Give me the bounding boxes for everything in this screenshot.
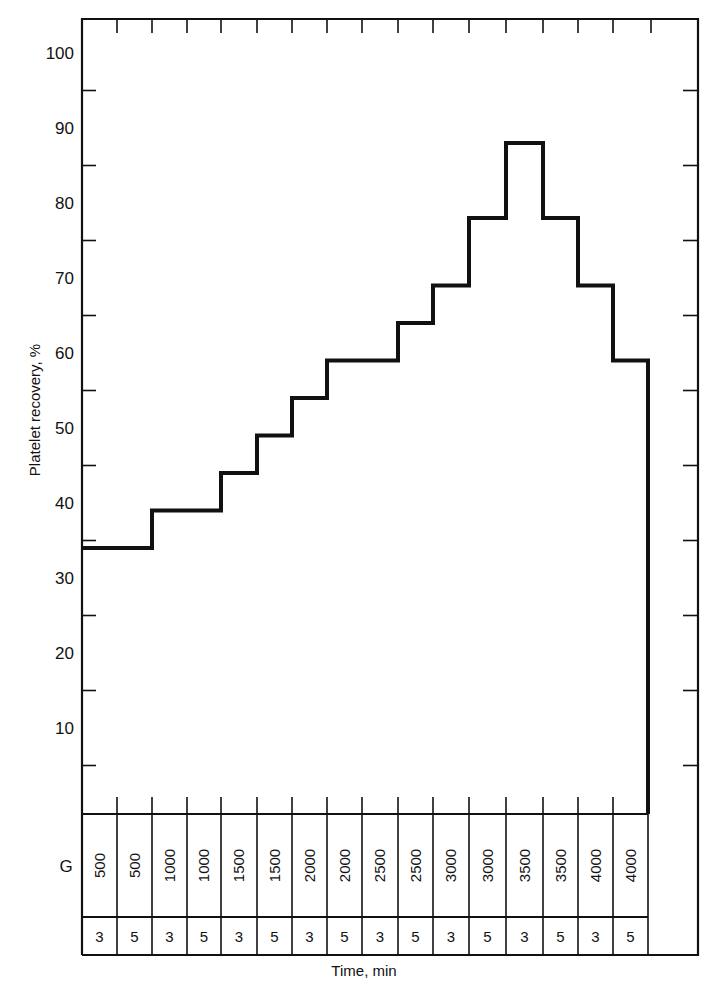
x-axis-title: Time, min (331, 962, 396, 979)
y-tick-label: 70 (55, 269, 74, 288)
g-value-cell: 1000 (195, 849, 212, 882)
y-axis-ticks (82, 91, 698, 766)
time-value-cell: 3 (235, 928, 243, 945)
time-value-cell: 3 (305, 928, 313, 945)
g-value-cell: 500 (126, 853, 143, 878)
time-value-cell: 5 (483, 928, 491, 945)
time-value-cell: 5 (130, 928, 138, 945)
time-value-cell: 3 (520, 928, 528, 945)
g-value-cell: 2000 (301, 849, 318, 882)
time-value-cell: 5 (340, 928, 348, 945)
g-value-cell: 1000 (161, 849, 178, 882)
g-value-cell: 4000 (622, 849, 639, 882)
g-value-cell: 2500 (371, 849, 388, 882)
time-value-cell: 3 (447, 928, 455, 945)
g-value-cell: 500 (91, 853, 108, 878)
time-value-cell: 3 (165, 928, 173, 945)
y-tick-label: 80 (55, 194, 74, 213)
g-value-cell: 1500 (266, 849, 283, 882)
y-tick-label: 60 (55, 344, 74, 363)
y-tick-label: 100 (46, 44, 74, 63)
time-value-cell: 5 (626, 928, 634, 945)
y-tick-label: 30 (55, 569, 74, 588)
time-value-cell: 3 (95, 928, 103, 945)
top-axis-ticks (117, 19, 651, 33)
g-value-cell: 3000 (479, 849, 496, 882)
time-value-cell: 5 (411, 928, 419, 945)
g-value-cell: 3500 (516, 849, 533, 882)
g-value-cell: 3000 (442, 849, 459, 882)
g-value-cell: 4000 (587, 849, 604, 882)
time-value-cell: 3 (376, 928, 384, 945)
g-value-cell: 2500 (407, 849, 424, 882)
y-tick-label: 50 (55, 419, 74, 438)
time-value-cell: 5 (270, 928, 278, 945)
y-axis-title: Platelet recovery, % (26, 344, 43, 476)
g-value-cell: 1500 (230, 849, 247, 882)
y-axis-tick-labels: 102030405060708090100 (46, 44, 74, 738)
chart: 102030405060708090100 500350051000310005… (0, 0, 719, 993)
g-value-cell: 3500 (552, 849, 569, 882)
y-tick-label: 90 (55, 119, 74, 138)
condition-table: 5003500510003100051500315005200032000525… (82, 797, 648, 955)
g-row-label: G (59, 857, 72, 876)
time-value-cell: 5 (556, 928, 564, 945)
time-value-cell: 3 (591, 928, 599, 945)
y-tick-label: 40 (55, 494, 74, 513)
step-line-series (82, 143, 648, 814)
y-tick-label: 10 (55, 719, 74, 738)
time-value-cell: 5 (200, 928, 208, 945)
g-value-cell: 2000 (336, 849, 353, 882)
y-tick-label: 20 (55, 644, 74, 663)
